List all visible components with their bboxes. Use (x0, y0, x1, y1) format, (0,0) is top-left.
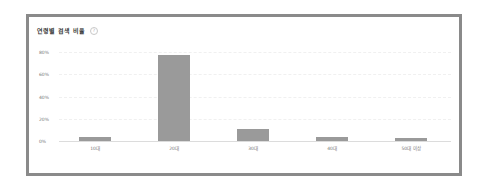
y-tick-0: 0% (39, 139, 46, 144)
y-tick-80: 80% (39, 50, 49, 55)
y-tick-40: 40% (39, 95, 49, 100)
gridline (59, 119, 451, 120)
bar-50대 이상[interactable] (395, 138, 427, 141)
x-tick-50s-plus: 50대 이상 (386, 145, 436, 151)
x-tick-10s: 10대 (70, 145, 120, 151)
bar-30대[interactable] (237, 129, 269, 141)
x-tick-30s: 30대 (228, 145, 278, 151)
y-tick-20: 20% (39, 117, 49, 122)
x-tick-20s: 20대 (149, 145, 199, 151)
gridline (59, 74, 451, 75)
bar-10대[interactable] (79, 137, 111, 141)
x-tick-40s: 40대 (307, 145, 357, 151)
x-axis-baseline (59, 141, 451, 142)
bar-40대[interactable] (316, 137, 348, 141)
age-search-ratio-card: 연령별 검색 비율 ? 80% 60% 40% 20% 0% 10대 20대 3… (26, 14, 462, 176)
gridline (59, 97, 451, 98)
bar-20대[interactable] (158, 55, 190, 141)
y-tick-60: 60% (39, 72, 49, 77)
bar-chart: 80% 60% 40% 20% 0% 10대 20대 30대 40대 50대 이… (29, 17, 459, 173)
gridline (59, 52, 451, 53)
